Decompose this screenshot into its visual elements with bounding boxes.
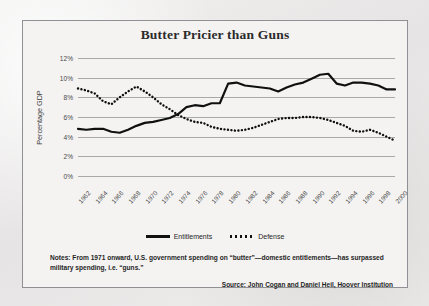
chart-title: Butter Pricier than Guns: [23, 27, 407, 43]
x-tick-label-1986: 1986: [277, 189, 292, 204]
solid-line-swatch-icon: [146, 235, 170, 238]
gridline-0: 0%: [78, 176, 395, 177]
x-tick-label-1998: 1998: [377, 189, 392, 204]
y-tick-label: 6%: [63, 114, 73, 121]
y-tick-label: 0%: [63, 173, 73, 180]
x-tick-label-1974: 1974: [177, 189, 192, 204]
x-tick-label-1990: 1990: [310, 189, 325, 204]
y-axis-title: Percentage GDP: [33, 58, 45, 176]
x-tick-label-1978: 1978: [210, 189, 225, 204]
plot-area: 0%2%4%6%8%10%12% 19621964196619681970197…: [78, 58, 395, 176]
x-tick-label-1972: 1972: [160, 189, 175, 204]
x-tick-label-1984: 1984: [260, 189, 275, 204]
x-tick-label-1968: 1968: [127, 189, 142, 204]
x-tick-label-1994: 1994: [344, 189, 359, 204]
x-tick-label-1970: 1970: [144, 189, 159, 204]
x-tick-label-1982: 1982: [244, 189, 259, 204]
legend-item-entitlements: Entitlements: [146, 233, 213, 240]
x-tick-label-1976: 1976: [194, 189, 209, 204]
y-tick-label: 4%: [63, 133, 73, 140]
y-tick-label: 8%: [63, 94, 73, 101]
x-tick-label-1962: 1962: [77, 189, 92, 204]
legend-label-defense: Defense: [258, 233, 284, 240]
x-tick-label-1988: 1988: [294, 189, 309, 204]
series-line-entitlements: [78, 74, 395, 133]
x-tick-label-1996: 1996: [360, 189, 375, 204]
y-tick-label: 10%: [60, 74, 73, 81]
x-tick-label-2000: 2000: [394, 189, 409, 204]
x-tick-label-1980: 1980: [227, 189, 242, 204]
chart-legend: Entitlements Defense: [23, 233, 407, 240]
x-tick-label-1964: 1964: [93, 189, 108, 204]
chart-figure-frame: Butter Pricier than Guns Percentage GDP …: [22, 20, 408, 288]
legend-label-entitlements: Entitlements: [174, 233, 213, 240]
legend-item-defense: Defense: [230, 233, 284, 240]
x-tick-label-1992: 1992: [327, 189, 342, 204]
series-line-defense: [78, 87, 395, 141]
chart-source: Source: John Cogan and Daniel Heil, Hoov…: [222, 281, 393, 288]
chart-notes: Notes: From 1971 onward, U.S. government…: [50, 253, 384, 273]
y-tick-label: 12%: [60, 55, 73, 62]
y-axis-title-label: Percentage GDP: [35, 90, 44, 144]
dotted-line-swatch-icon: [230, 235, 254, 238]
series-lines-svg: [78, 58, 395, 176]
y-tick-label: 2%: [63, 153, 73, 160]
x-tick-label-1966: 1966: [110, 189, 125, 204]
